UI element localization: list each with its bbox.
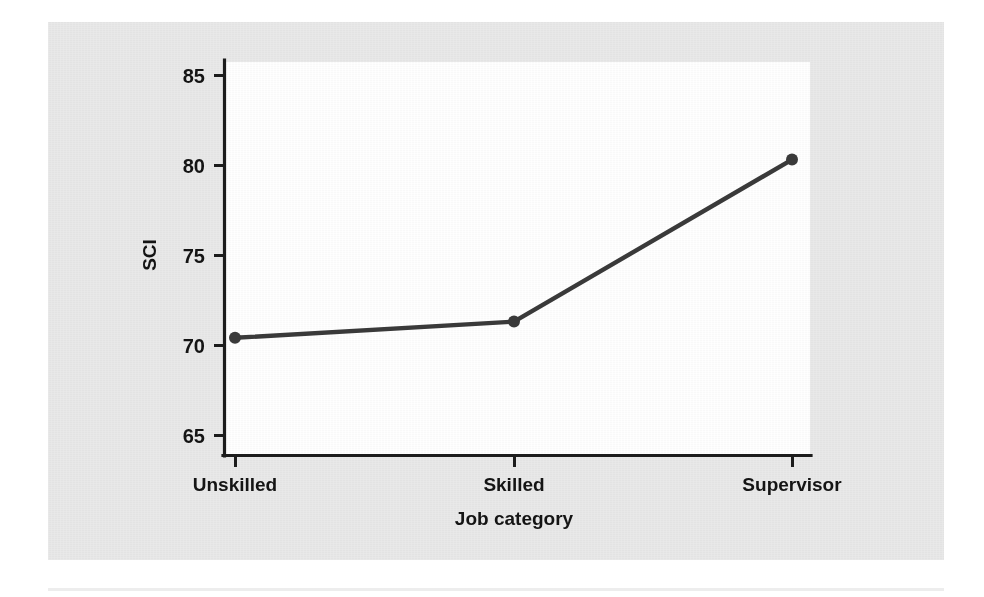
y-tick-label-65: 65	[183, 425, 205, 447]
y-tick-label-85: 85	[183, 65, 205, 87]
data-point-skilled	[508, 316, 520, 328]
data-point-unskilled	[229, 332, 241, 344]
y-tick-label-80: 80	[183, 155, 205, 177]
data-point-supervisor	[786, 154, 798, 166]
plot-area-background	[224, 62, 810, 455]
x-tick-label-unskilled: Unskilled	[193, 474, 277, 495]
line-chart: 85 80 75 70 65 SCI Unskilled Skilled Sup…	[48, 22, 944, 560]
x-tick-label-skilled: Skilled	[483, 474, 544, 495]
figure-panel: 85 80 75 70 65 SCI Unskilled Skilled Sup…	[48, 22, 944, 560]
x-tick-label-supervisor: Supervisor	[742, 474, 842, 495]
y-axis-title: SCI	[139, 239, 160, 271]
y-tick-label-70: 70	[183, 335, 205, 357]
x-axis-title: Job category	[455, 508, 574, 529]
page-separator-rule	[48, 588, 944, 591]
y-tick-label-75: 75	[183, 245, 205, 267]
